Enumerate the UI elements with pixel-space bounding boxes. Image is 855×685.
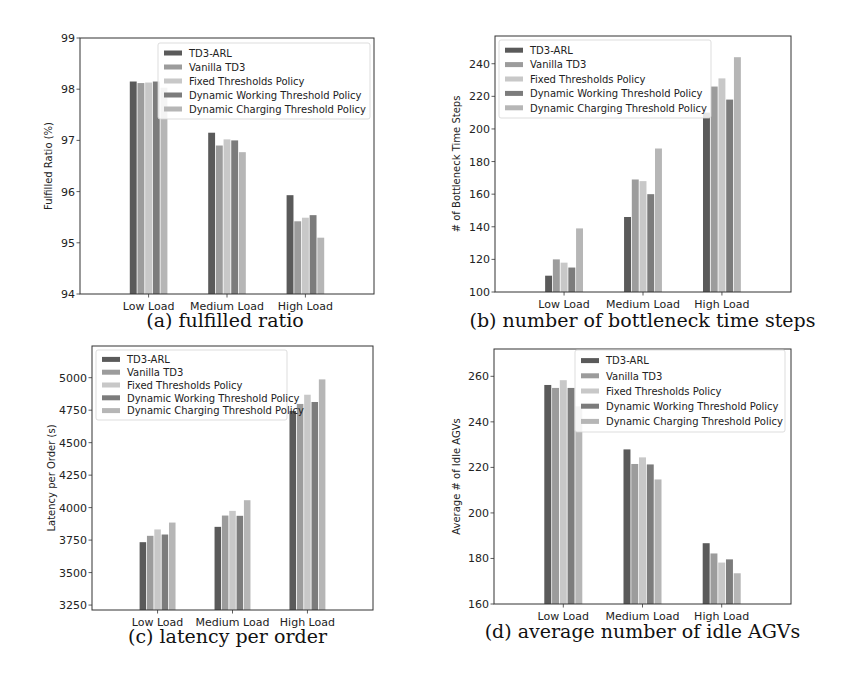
y-tick-label: 180 xyxy=(468,552,489,565)
y-tick-label: 160 xyxy=(469,188,490,201)
legend-label: Fixed Thresholds Policy xyxy=(189,76,305,87)
y-axis-label: Latency per Order (s) xyxy=(46,424,57,531)
bar-fixed-thresholds-policy-high-load xyxy=(304,395,311,610)
legend-swatch xyxy=(505,77,523,82)
y-tick-label: 260 xyxy=(468,370,489,383)
bar-dynamic-charging-threshold-policy-medium-load xyxy=(239,152,246,294)
bar-fixed-thresholds-policy-medium-load xyxy=(640,181,647,292)
bar-dynamic-working-threshold-policy-high-load xyxy=(312,402,319,610)
y-tick-label: 140 xyxy=(469,221,490,234)
legend-label: Fixed Thresholds Policy xyxy=(127,380,243,391)
chart-panel-b: Low LoadMedium LoadHigh Load100120140160… xyxy=(430,0,855,340)
y-tick-label: 180 xyxy=(469,156,490,169)
legend-label: Dynamic Working Threshold Policy xyxy=(530,88,703,99)
legend-swatch xyxy=(102,395,120,400)
legend-label: Fixed Thresholds Policy xyxy=(606,386,722,397)
y-axis-label: Average # of Idle AGVs xyxy=(451,418,462,535)
bar-td3-arl-high-load xyxy=(289,411,296,610)
bar-chart-fulfilled-ratio: Low LoadMedium LoadHigh Load949596979899… xyxy=(0,0,430,340)
bar-dynamic-working-threshold-policy-low-load xyxy=(568,268,575,292)
bar-fixed-thresholds-policy-medium-load xyxy=(639,457,646,604)
bar-dynamic-working-threshold-policy-medium-load xyxy=(647,464,654,604)
bar-td3-arl-medium-load xyxy=(624,217,631,292)
bar-vanilla-td3-medium-load xyxy=(632,179,639,292)
bar-td3-arl-low-load xyxy=(545,276,552,292)
bar-td3-arl-medium-load xyxy=(215,527,222,610)
legend-swatch xyxy=(505,48,523,53)
legend-swatch xyxy=(581,389,599,394)
y-tick-label: 97 xyxy=(61,134,75,147)
legend-label: Dynamic Working Threshold Policy xyxy=(127,393,300,404)
legend-label: Vanilla TD3 xyxy=(530,59,586,70)
bar-vanilla-td3-low-load xyxy=(147,536,154,610)
legend-label: Vanilla TD3 xyxy=(606,371,662,382)
legend-swatch xyxy=(164,65,182,70)
y-tick-label: 4750 xyxy=(59,404,87,417)
bar-dynamic-charging-threshold-policy-low-load xyxy=(576,228,583,292)
legend-swatch xyxy=(581,404,599,409)
chart-panel-d: Low LoadMedium LoadHigh Load160180200220… xyxy=(430,340,855,685)
legend-label: TD3-ARL xyxy=(126,354,170,365)
bar-dynamic-charging-threshold-policy-medium-load xyxy=(655,479,662,604)
bar-dynamic-charging-threshold-policy-medium-load xyxy=(244,500,251,610)
legend-label: TD3-ARL xyxy=(605,355,649,366)
bar-fixed-thresholds-policy-medium-load xyxy=(224,139,231,294)
legend-swatch xyxy=(164,107,182,112)
legend-swatch xyxy=(505,91,523,96)
bar-vanilla-td3-low-load xyxy=(137,83,144,294)
legend-label: Vanilla TD3 xyxy=(127,367,183,378)
y-tick-label: 120 xyxy=(469,253,490,266)
y-tick-label: 200 xyxy=(469,123,490,136)
y-tick-label: 3500 xyxy=(59,567,87,580)
bar-dynamic-working-threshold-policy-medium-load xyxy=(237,516,244,610)
caption-c: (c) latency per order xyxy=(100,625,355,647)
legend-swatch xyxy=(581,419,599,424)
legend-swatch xyxy=(102,357,120,362)
bar-td3-arl-high-load xyxy=(287,195,294,294)
legend-label: Dynamic Working Threshold Policy xyxy=(189,90,362,101)
caption-d: (d) average number of idle AGVs xyxy=(430,620,855,642)
y-tick-label: 240 xyxy=(468,416,489,429)
bar-vanilla-td3-high-load xyxy=(710,553,717,604)
legend-swatch xyxy=(102,408,120,413)
bar-dynamic-working-threshold-policy-low-load xyxy=(162,535,169,610)
y-tick-label: 94 xyxy=(61,288,75,301)
bar-fixed-thresholds-policy-low-load xyxy=(561,263,568,292)
bar-vanilla-td3-high-load xyxy=(297,404,304,610)
y-tick-label: 4000 xyxy=(59,502,87,515)
bar-dynamic-charging-threshold-policy-medium-load xyxy=(655,149,662,292)
legend-label: Fixed Thresholds Policy xyxy=(530,74,646,85)
legend-swatch xyxy=(581,358,599,363)
chart-panel-a: Low LoadMedium LoadHigh Load949596979899… xyxy=(0,0,430,340)
bar-td3-arl-low-load xyxy=(140,542,147,610)
y-tick-label: 240 xyxy=(469,58,490,71)
legend-swatch xyxy=(164,51,182,56)
legend-swatch xyxy=(164,79,182,84)
bar-td3-arl-low-load xyxy=(544,385,551,604)
bar-dynamic-working-threshold-policy-medium-load xyxy=(231,140,238,294)
bar-dynamic-charging-threshold-policy-high-load xyxy=(317,238,324,294)
caption-a: (a) fulfilled ratio xyxy=(100,309,350,331)
y-tick-label: 4500 xyxy=(59,437,87,450)
y-tick-label: 96 xyxy=(61,186,75,199)
y-tick-label: 200 xyxy=(468,507,489,520)
y-axis-label: # of Bottleneck Time Steps xyxy=(451,96,462,233)
y-tick-label: 5000 xyxy=(59,372,87,385)
bar-fixed-thresholds-policy-high-load xyxy=(302,218,309,294)
y-tick-label: 100 xyxy=(469,286,490,299)
legend-label: Dynamic Charging Threshold Policy xyxy=(530,103,707,114)
bar-dynamic-charging-threshold-policy-high-load xyxy=(734,573,741,604)
bar-vanilla-td3-medium-load xyxy=(216,146,223,294)
bar-td3-arl-high-load xyxy=(703,543,710,604)
bar-td3-arl-high-load xyxy=(703,113,710,292)
bar-fixed-thresholds-policy-high-load xyxy=(718,563,725,604)
legend-swatch xyxy=(102,383,120,388)
y-tick-label: 3750 xyxy=(59,534,87,547)
y-tick-label: 220 xyxy=(469,90,490,103)
legend-label: Vanilla TD3 xyxy=(189,62,245,73)
legend-swatch xyxy=(505,62,523,67)
bar-vanilla-td3-high-load xyxy=(294,221,301,294)
legend: TD3-ARLVanilla TD3Fixed Thresholds Polic… xyxy=(158,43,370,119)
bar-vanilla-td3-medium-load xyxy=(222,516,229,610)
caption-b: (b) number of bottleneck time steps xyxy=(430,309,855,331)
